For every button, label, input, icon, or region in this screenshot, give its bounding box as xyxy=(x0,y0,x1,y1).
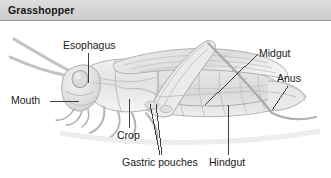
label-crop: Crop xyxy=(117,129,140,141)
compound-eye xyxy=(72,71,88,88)
figure-title: Grasshopper xyxy=(8,4,74,16)
hind-tarsus xyxy=(272,113,316,119)
label-anus: Anus xyxy=(277,72,301,84)
label-gastric-pouches: Gastric pouches xyxy=(122,156,198,168)
grasshopper-anatomy-figure: Grasshopper xyxy=(0,0,331,178)
grasshopper-illustration xyxy=(0,21,331,178)
label-midgut: Midgut xyxy=(259,47,291,59)
mouthparts xyxy=(56,109,89,127)
label-esophagus: Esophagus xyxy=(63,39,116,51)
label-mouth: Mouth xyxy=(11,94,40,106)
head xyxy=(62,65,101,111)
figure-header-bar: Grasshopper xyxy=(0,0,331,21)
abdomen-tip xyxy=(268,81,306,111)
label-hindgut: Hindgut xyxy=(209,156,245,168)
